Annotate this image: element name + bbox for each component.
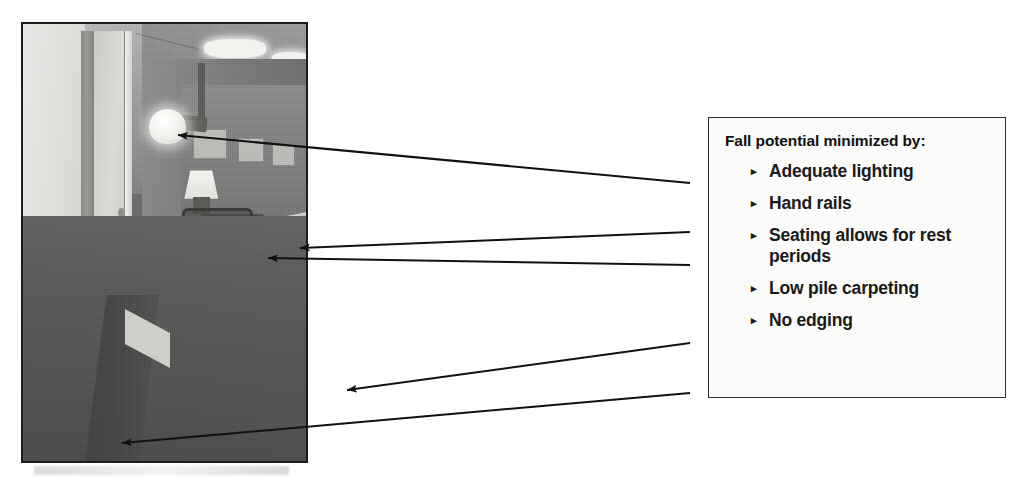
annotation-arrows — [0, 0, 1027, 480]
arrow-to-hand-rail — [300, 232, 690, 248]
arrow-to-carpet — [347, 343, 690, 390]
arrow-group — [122, 135, 690, 443]
arrow-to-wall-sconce — [178, 135, 690, 183]
figure-root: Fall potential minimized by: ▸ Adequate … — [0, 0, 1027, 480]
arrow-to-floor-edge — [122, 393, 690, 443]
arrow-to-chair — [268, 258, 690, 265]
